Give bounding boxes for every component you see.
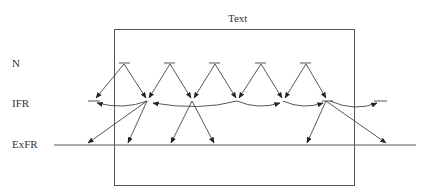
n-to-ifr-arrows: [96, 64, 326, 98]
row-label-ifr: IFR: [12, 97, 30, 109]
flow-diagram: Text N IFR ExFR: [0, 0, 428, 195]
ifr-to-exfr-arrows: [88, 101, 386, 143]
row-label-n: N: [12, 57, 20, 69]
row-label-exfr: ExFR: [12, 138, 38, 150]
text-box: [115, 30, 355, 186]
ifr-lateral-arrows: [97, 101, 377, 107]
box-title: Text: [228, 12, 247, 24]
